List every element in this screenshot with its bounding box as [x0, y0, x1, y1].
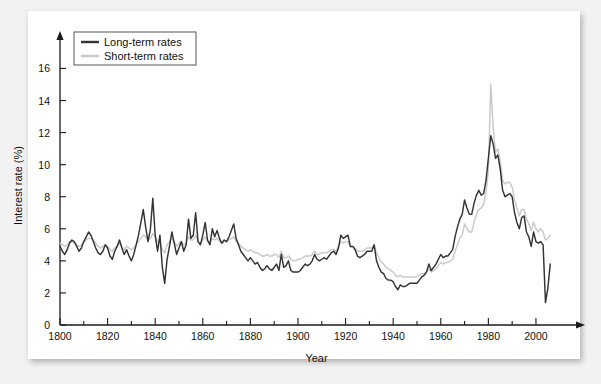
y-axis-arrow-icon [56, 31, 63, 40]
legend-label-long-term: Long-term rates [104, 36, 182, 48]
x-axis-title: Year [305, 352, 328, 364]
interest-rate-chart: 0246810121416 18001820184018601880190019… [0, 0, 601, 384]
chart-svg: 0246810121416 18001820184018601880190019… [0, 0, 601, 384]
axes-group [56, 31, 585, 329]
y-tick-label: 12 [38, 127, 50, 139]
x-tick-label: 1800 [48, 330, 72, 342]
y-tick-label: 2 [44, 287, 50, 299]
x-tick-label: 1900 [286, 330, 310, 342]
x-tick-label: 2000 [524, 330, 548, 342]
legend-label-short-term: Short-term rates [104, 50, 184, 62]
series-group [60, 84, 550, 302]
y-axis-title: Interest rate (%) [12, 146, 24, 225]
x-axis-ticks: 1800182018401860188019001920194019601980… [48, 318, 547, 342]
y-tick-label: 10 [38, 159, 50, 171]
y-axis-ticks: 0246810121416 [38, 62, 66, 331]
y-tick-label: 16 [38, 62, 50, 74]
x-tick-label: 1940 [381, 330, 405, 342]
y-tick-label: 14 [38, 95, 50, 107]
x-axis-arrow-icon [576, 321, 585, 328]
x-tick-label: 1880 [239, 330, 263, 342]
x-tick-label: 1820 [96, 330, 120, 342]
x-tick-label: 1980 [477, 330, 501, 342]
page-background: 0246810121416 18001820184018601880190019… [0, 0, 601, 384]
y-tick-label: 8 [44, 191, 50, 203]
x-tick-label: 1920 [334, 330, 358, 342]
chart-legend: Long-term rates Short-term rates [74, 32, 196, 65]
y-tick-label: 4 [44, 255, 50, 267]
x-tick-label: 1840 [144, 330, 168, 342]
series-short-term-rates [60, 84, 550, 276]
series-long-term-rates [60, 136, 550, 303]
x-tick-label: 1860 [191, 330, 215, 342]
y-tick-label: 6 [44, 223, 50, 235]
x-tick-label: 1960 [429, 330, 453, 342]
